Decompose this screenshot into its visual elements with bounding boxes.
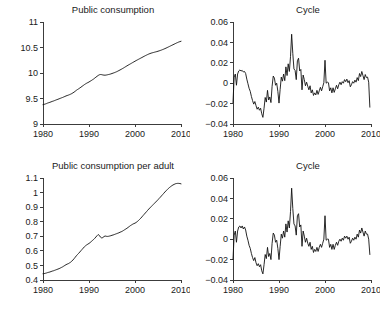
panel-title-public-consumption-per-adult: Public consumption per adult: [52, 160, 174, 171]
panel-public-consumption-per-adult: Public consumption per adult 0.40.50.60.…: [0, 156, 190, 312]
x-tick-label: 1990: [79, 285, 99, 295]
y-tick-label: 9.5: [25, 94, 38, 104]
panel-public-consumption: Public consumption 99.51010.511198019902…: [0, 0, 190, 156]
y-tick-label: 9: [33, 119, 38, 129]
y-tick-label: 1: [33, 188, 38, 198]
panel-cycle-bottom: Cycle −0.04−0.0200.020.040.0619801990200…: [190, 156, 380, 312]
x-tick-label: 1980: [223, 129, 243, 139]
x-tick-label: 2000: [125, 285, 145, 295]
y-tick-label: −0.04: [205, 119, 228, 129]
panel-title-public-consumption: Public consumption: [72, 4, 154, 15]
x-tick-label: 2010: [171, 129, 190, 139]
panel-cycle-top: Cycle −0.04−0.0200.020.040.0619801990200…: [190, 0, 380, 156]
y-tick-label: 0: [223, 78, 228, 88]
y-tick-label: 0.9: [25, 202, 38, 212]
chart-svg-public-consumption-per-adult: Public consumption per adult 0.40.50.60.…: [0, 156, 190, 312]
x-tick-label: 2000: [125, 129, 145, 139]
chart-svg-cycle-top: Cycle −0.04−0.0200.020.040.0619801990200…: [190, 0, 380, 156]
y-tick-label: 0.8: [25, 217, 38, 227]
y-tick-label: 0.04: [210, 194, 228, 204]
y-tick-label: 0.04: [210, 38, 228, 48]
chart-svg-public-consumption: Public consumption 99.51010.511198019902…: [0, 0, 190, 156]
series-line-public-consumption: [43, 41, 181, 104]
y-tick-label: 0.02: [210, 58, 228, 68]
y-tick-label: 0.02: [210, 214, 228, 224]
x-tick-label: 1980: [33, 129, 53, 139]
y-tick-label: 0.7: [25, 231, 38, 241]
y-tick-label: 0.6: [25, 246, 38, 256]
y-tick-label: −0.02: [205, 99, 228, 109]
y-tick-label: 10.5: [20, 43, 38, 53]
x-tick-label: 2010: [361, 285, 380, 295]
x-tick-label: 1990: [269, 129, 289, 139]
panel-title-cycle-bottom: Cycle: [296, 160, 320, 171]
axes-cycle-top: −0.04−0.0200.020.040.061980199020002010: [205, 17, 380, 139]
series-line-public-consumption-per-adult: [43, 183, 181, 273]
y-tick-label: 0.5: [25, 261, 38, 271]
x-tick-label: 2010: [361, 129, 380, 139]
y-tick-label: 0: [223, 234, 228, 244]
x-tick-label: 2000: [315, 285, 335, 295]
x-tick-label: 1980: [33, 285, 53, 295]
axis-spines: [43, 22, 181, 124]
y-tick-label: 0.06: [210, 173, 228, 183]
figure-container: Public consumption 99.51010.511198019902…: [0, 0, 380, 312]
chart-svg-cycle-bottom: Cycle −0.04−0.0200.020.040.0619801990200…: [190, 156, 380, 312]
axis-spines: [43, 178, 181, 280]
y-tick-label: −0.04: [205, 275, 228, 285]
series-line-cycle-top: [233, 34, 370, 117]
y-tick-label: −0.02: [205, 255, 228, 265]
x-tick-label: 2000: [315, 129, 335, 139]
y-tick-label: 1.1: [25, 173, 38, 183]
x-tick-label: 1980: [223, 285, 243, 295]
x-tick-label: 2010: [171, 285, 190, 295]
y-tick-label: 11: [29, 17, 38, 27]
axes-cycle-bottom: −0.04−0.0200.020.040.061980199020002010: [205, 173, 380, 295]
series-line-cycle-bottom: [233, 188, 370, 274]
y-tick-label: 0.06: [210, 17, 228, 27]
y-tick-label: 10: [28, 68, 38, 78]
x-tick-label: 1990: [79, 129, 99, 139]
axis-spines: [233, 22, 371, 124]
y-tick-label: 0.4: [25, 275, 38, 285]
x-tick-label: 1990: [269, 285, 289, 295]
axis-spines: [233, 178, 371, 280]
panel-title-cycle-top: Cycle: [296, 4, 320, 15]
axes-public-consumption: 99.51010.5111980199020002010: [20, 17, 190, 139]
